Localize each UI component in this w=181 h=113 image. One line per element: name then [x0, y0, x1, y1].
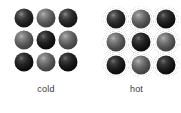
particle-sphere-icon	[156, 55, 175, 74]
particle-group-hot: hot	[92, 0, 181, 113]
particle-sphere-icon	[59, 31, 78, 50]
group-label-cold: cold	[3, 84, 89, 94]
particle-sphere-icon	[15, 53, 34, 72]
group-label-hot: hot	[92, 84, 181, 94]
particle-sphere-icon	[131, 55, 150, 74]
particle-sphere-icon	[37, 31, 56, 50]
particle-sphere-icon	[15, 31, 34, 50]
particle-sphere-icon	[156, 32, 175, 51]
particle-group-cold: cold	[3, 0, 89, 113]
particle-sphere-icon	[59, 9, 78, 28]
particle-sphere-icon	[59, 53, 78, 72]
particle-sphere-icon	[131, 9, 150, 28]
particle-sphere-icon	[106, 32, 125, 51]
particle-sphere-icon	[37, 53, 56, 72]
particle-sphere-icon	[106, 55, 125, 74]
particle-sphere-icon	[131, 32, 150, 51]
particle-sphere-icon	[37, 9, 56, 28]
diagram-canvas: cold hot	[0, 0, 181, 113]
particle-sphere-icon	[156, 9, 175, 28]
particle-sphere-icon	[106, 9, 125, 28]
particle-sphere-icon	[15, 9, 34, 28]
